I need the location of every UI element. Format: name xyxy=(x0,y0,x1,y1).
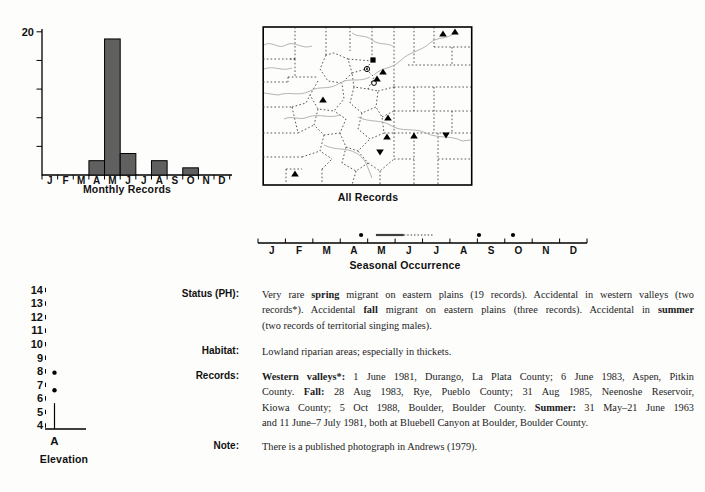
elevation-tick-label: 13 xyxy=(31,297,43,309)
text-line: Kiowa County; 5 Oct 1988, Boulder, Bould… xyxy=(262,400,694,415)
status-label: Status (PH): xyxy=(100,288,239,299)
elevation-tick-label: 11 xyxy=(31,324,43,336)
occurrence-dot xyxy=(511,233,515,237)
triangle-up-marker xyxy=(319,97,327,103)
note-label: Note: xyxy=(100,440,239,451)
seasonal-occurrence-axis: JFMAMJJASOND xyxy=(248,222,598,262)
bar-A-2 xyxy=(89,161,105,175)
records-label: Records: xyxy=(100,370,239,381)
elevation-tick-label: 12 xyxy=(31,311,43,323)
elevation-tick-label: 8 xyxy=(37,365,43,377)
colorado-map xyxy=(262,25,474,190)
elevation-tick-label: 9 xyxy=(37,352,43,364)
text-line: records*). Accidental fall migrant on ea… xyxy=(262,302,694,317)
month-label: N xyxy=(542,245,549,256)
month-label: J xyxy=(269,245,275,256)
square-marker xyxy=(370,57,375,62)
month-label: O xyxy=(515,245,523,256)
text-line: Western valleys*: 1 June 1981, Durango, … xyxy=(262,369,694,384)
records-text: Western valleys*: 1 June 1981, Durango, … xyxy=(262,369,694,431)
elevation-tick-label: 14 xyxy=(31,284,44,296)
triangle-down-marker xyxy=(376,149,384,155)
month-label: J xyxy=(406,245,412,256)
text-line: There is a published photograph in Andre… xyxy=(262,439,694,454)
county-boundaries xyxy=(263,27,471,185)
triangle-up-marker xyxy=(383,134,391,140)
monthly-axes xyxy=(42,29,232,175)
state-border xyxy=(263,27,472,185)
bar-A-2 xyxy=(151,161,167,175)
elevation-category-label: A xyxy=(50,435,58,447)
month-label: S xyxy=(488,245,495,256)
habitat-label: Habitat: xyxy=(100,345,239,356)
triangle-up-marker xyxy=(410,133,418,139)
elevation-tick-label: 7 xyxy=(37,379,43,391)
all-records-title: All Records xyxy=(262,191,474,203)
text-line: Lowland riparian areas; especially in th… xyxy=(262,344,694,359)
elevation-title: Elevation xyxy=(14,453,114,465)
month-label: D xyxy=(570,245,577,256)
month-label: M xyxy=(377,245,385,256)
elevation-tick-label: 5 xyxy=(37,406,43,418)
triangle-up-marker xyxy=(439,31,447,37)
triangle-up-marker xyxy=(384,115,392,121)
elevation-dot xyxy=(52,388,56,392)
occurrence-dot xyxy=(477,233,481,237)
month-label: M xyxy=(322,245,330,256)
elevation-tick-label: 4 xyxy=(37,419,44,431)
book-page: 20JFMAMJJASOND Monthly Records All Recor… xyxy=(0,0,705,492)
elevation-tick-label: 6 xyxy=(37,392,43,404)
elevation-tick-label: 10 xyxy=(31,338,43,350)
seasonal-occurrence-title: Seasonal Occurrence xyxy=(305,259,505,271)
bar-J-3 xyxy=(120,154,136,175)
note-text: There is a published photograph in Andre… xyxy=(262,439,694,454)
month-label: J xyxy=(433,245,439,256)
text-line: (two records of territorial singing male… xyxy=(262,318,694,333)
month-label: A xyxy=(460,245,467,256)
y-axis-max-label: 20 xyxy=(22,26,34,38)
monthly-records-chart: 20JFMAMJJASOND xyxy=(5,18,240,198)
triangle-up-marker xyxy=(451,29,459,35)
occurrence-dot xyxy=(359,233,363,237)
text-line: and 11 June–7 July 1981, both at Bluebel… xyxy=(262,415,694,430)
text-line: County. Fall: 28 Aug 1983, Rye, Pueblo C… xyxy=(262,384,694,399)
triangle-up-marker xyxy=(291,171,299,177)
elevation-dot xyxy=(52,370,56,374)
month-label: F xyxy=(296,245,302,256)
bar-M-19 xyxy=(105,39,121,175)
bar-O-1 xyxy=(183,168,199,175)
month-label: A xyxy=(350,245,357,256)
triangle-up-marker xyxy=(379,69,387,75)
monthly-records-title: Monthly Records xyxy=(27,183,227,195)
text-line: Very rare spring migrant on eastern plai… xyxy=(262,287,694,302)
habitat-text: Lowland riparian areas; especially in th… xyxy=(262,344,694,359)
circle-dot-center xyxy=(366,68,368,70)
status-text: Very rare spring migrant on eastern plai… xyxy=(262,287,694,333)
